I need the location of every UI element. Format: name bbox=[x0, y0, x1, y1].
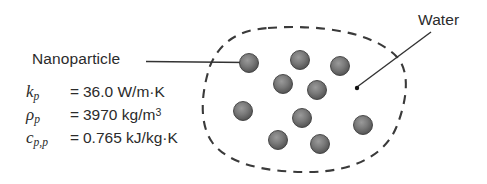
equals-sign: = bbox=[66, 83, 83, 101]
property-row-thermal-conductivity: kp = 36.0 W/m·K bbox=[26, 82, 178, 105]
water-leader-endpoint-dot bbox=[355, 86, 359, 90]
water-leader-line bbox=[357, 32, 431, 87]
nanoparticle-dot bbox=[240, 54, 259, 73]
symbol-k-p: kp bbox=[26, 82, 66, 103]
nanoparticle-dot bbox=[311, 135, 330, 154]
nanoparticle-dot bbox=[354, 116, 373, 135]
nanoparticle-group bbox=[234, 51, 373, 154]
nanoparticle-label: Nanoparticle bbox=[32, 50, 120, 68]
nanoparticle-leader-line bbox=[146, 62, 247, 63]
value-thermal-conductivity: 36.0 W/m·K bbox=[83, 83, 165, 101]
equals-sign: = bbox=[66, 106, 83, 124]
symbol-c-p-p: cp,p bbox=[26, 128, 66, 149]
nanoparticle-dot bbox=[308, 81, 327, 100]
property-row-density: ρp = 3970 kg/m3 bbox=[26, 105, 178, 128]
value-density: 3970 kg/m3 bbox=[83, 106, 161, 124]
water-label: Water bbox=[418, 11, 459, 29]
nanofluid-figure: Nanoparticle Water kp = 36.0 W/m·K ρp = … bbox=[0, 0, 487, 184]
nanoparticle-dot bbox=[291, 51, 310, 70]
property-list: kp = 36.0 W/m·K ρp = 3970 kg/m3 cp,p = 0… bbox=[26, 82, 178, 151]
property-row-specific-heat: cp,p = 0.765 kJ/kg·K bbox=[26, 128, 178, 151]
symbol-rho-p: ρp bbox=[26, 105, 66, 126]
nanoparticle-dot bbox=[269, 131, 288, 150]
nanoparticle-dot bbox=[234, 102, 253, 121]
value-specific-heat: 0.765 kJ/kg·K bbox=[83, 129, 178, 147]
nanoparticle-dot bbox=[331, 57, 350, 76]
nanoparticle-dot bbox=[274, 75, 293, 94]
equals-sign: = bbox=[66, 129, 83, 147]
nanoparticle-dot bbox=[293, 109, 312, 128]
water-boundary-dashed-outline bbox=[203, 27, 406, 172]
